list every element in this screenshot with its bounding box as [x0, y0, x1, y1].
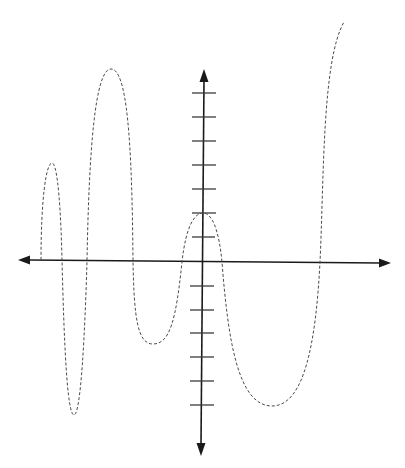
graph-canvas: [0, 0, 405, 468]
x-axis: [30, 260, 380, 263]
x-axis-right-arrow-icon: [379, 259, 391, 268]
coordinate-plane: [0, 0, 405, 468]
function-curve: [41, 22, 344, 415]
x-axis-left-arrow-icon: [18, 256, 30, 265]
y-axis-up-arrow-icon: [200, 69, 209, 82]
y-axis-down-arrow-icon: [197, 443, 206, 456]
